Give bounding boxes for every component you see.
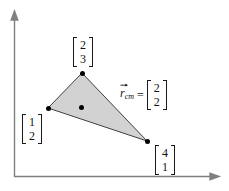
vertex-dot-left — [46, 106, 51, 111]
triangle-shape — [0, 0, 229, 191]
vector-label-top: 2 3 — [73, 37, 93, 67]
vector-figure: 2 3 1 2 4 1 rcm = — [0, 0, 229, 191]
center-of-mass-equation: rcm = 2 2 — [120, 80, 167, 110]
bracket-right — [89, 37, 93, 67]
rcm-subscript: cm — [125, 92, 134, 101]
rcm-symbol: rcm — [120, 87, 134, 103]
vertex-dot-bottom-right — [145, 139, 150, 144]
bracket-right — [163, 80, 167, 110]
bracket-right — [38, 114, 42, 144]
vector-entries: 2 3 — [77, 37, 89, 67]
vector-entries: 4 1 — [159, 145, 171, 175]
vector-label-centroid: 2 2 — [147, 80, 167, 110]
vector-label-bottom-right: 4 1 — [155, 145, 175, 175]
vector-entry-y: 2 — [29, 129, 35, 143]
vector-entries: 1 2 — [26, 114, 38, 144]
vector-entry-y: 1 — [162, 160, 168, 174]
vertex-dot-top — [80, 71, 85, 76]
vector-entry-x: 1 — [29, 115, 35, 129]
vector-entry-y: 2 — [154, 95, 160, 109]
vector-entry-y: 3 — [80, 52, 86, 66]
vector-entries: 2 2 — [151, 80, 163, 110]
vector-entry-x: 4 — [162, 146, 168, 160]
vector-label-left: 1 2 — [22, 114, 42, 144]
vector-entry-x: 2 — [154, 81, 160, 95]
bracket-right — [171, 145, 175, 175]
centroid-dot — [79, 105, 84, 110]
equals-sign: = — [137, 89, 144, 101]
vector-entry-x: 2 — [80, 38, 86, 52]
